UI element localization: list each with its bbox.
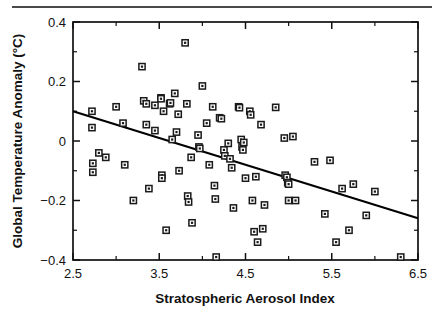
data-point-marker [184, 101, 190, 107]
data-point-marker [152, 127, 158, 133]
data-point-marker [176, 168, 182, 174]
data-point-marker [253, 174, 259, 180]
data-point-marker [146, 186, 152, 192]
data-point-marker [210, 104, 216, 110]
data-point-marker [350, 181, 356, 187]
data-point-marker [197, 145, 203, 151]
data-point-marker [363, 212, 369, 218]
x-tick-label: 6.5 [409, 266, 427, 281]
data-point-marker [175, 111, 181, 117]
data-point-marker [286, 197, 292, 203]
data-point-marker [273, 104, 279, 110]
data-point-marker [96, 150, 102, 156]
data-point-marker [398, 254, 404, 260]
data-point-marker [322, 211, 328, 217]
data-points [89, 40, 404, 260]
data-point-marker [89, 125, 95, 131]
data-point-marker [230, 205, 236, 211]
data-point-marker [227, 156, 233, 162]
data-point-marker [158, 96, 164, 102]
data-point-marker [189, 220, 195, 226]
data-point-marker [346, 227, 352, 233]
data-point-marker [182, 40, 188, 46]
axis-tick-labels: 2.53.54.55.56.5−0.4−0.200.20.4 [40, 15, 427, 282]
x-tick-label: 3.5 [150, 266, 168, 281]
y-tick-label: −0.2 [40, 193, 66, 208]
data-point-marker [139, 64, 145, 70]
data-point-marker [143, 101, 149, 107]
data-point-marker [327, 157, 333, 163]
data-point-marker [292, 197, 298, 203]
data-point-marker [185, 199, 191, 205]
data-point-marker [258, 122, 264, 128]
data-point-marker [229, 165, 235, 171]
data-point-marker [242, 175, 248, 181]
data-point-marker [204, 120, 210, 126]
data-point-marker [199, 83, 205, 89]
data-point-marker [90, 169, 96, 175]
data-point-marker [218, 116, 224, 122]
data-point-marker [120, 120, 126, 126]
data-point-marker [195, 132, 201, 138]
data-point-marker [103, 154, 109, 160]
data-point-marker [159, 175, 165, 181]
data-point-marker [172, 90, 178, 96]
data-point-marker [173, 129, 179, 135]
scatter-plot: 2.53.54.55.56.5−0.4−0.200.20.4 Stratosph… [0, 0, 443, 319]
data-point-marker [339, 186, 345, 192]
x-tick-label: 2.5 [64, 266, 82, 281]
data-point-marker [281, 135, 287, 141]
data-point-marker [225, 140, 231, 146]
data-point-marker [163, 227, 169, 233]
data-point-marker [89, 108, 95, 114]
y-tick-label: −0.4 [40, 253, 66, 268]
data-point-marker [152, 102, 158, 108]
data-point-marker [249, 197, 255, 203]
y-tick-label: 0.2 [48, 74, 66, 89]
y-axis-title: Global Temperature Anomaly (°C) [10, 34, 25, 249]
y-tick-label: 0.4 [48, 15, 66, 30]
data-point-marker [236, 105, 242, 111]
data-point-marker [122, 162, 128, 168]
data-point-marker [90, 160, 96, 166]
data-point-marker [241, 139, 247, 145]
data-point-marker [206, 162, 212, 168]
data-point-marker [167, 100, 173, 106]
data-point-marker [251, 229, 257, 235]
data-point-marker [113, 104, 119, 110]
y-tick-label: 0 [59, 134, 66, 149]
data-point-marker [311, 159, 317, 165]
data-point-marker [286, 181, 292, 187]
data-point-marker [372, 188, 378, 194]
data-point-marker [169, 136, 175, 142]
data-point-marker [290, 133, 296, 139]
data-point-marker [213, 254, 219, 260]
data-point-marker [160, 108, 166, 114]
data-point-marker [254, 239, 260, 245]
data-point-marker [212, 196, 218, 202]
data-point-marker [211, 183, 217, 189]
data-point-marker [261, 202, 267, 208]
data-point-marker [143, 122, 149, 128]
data-point-marker [240, 147, 246, 153]
figure-container: 2.53.54.55.56.5−0.4−0.200.20.4 Stratosph… [0, 0, 443, 319]
x-axis-title: Stratospheric Aerosol Index [155, 291, 335, 306]
x-tick-label: 4.5 [236, 266, 254, 281]
data-point-marker [333, 239, 339, 245]
data-point-marker [130, 197, 136, 203]
data-point-marker [260, 226, 266, 232]
data-point-marker [188, 154, 194, 160]
data-point-marker [248, 112, 254, 118]
x-tick-label: 5.5 [323, 266, 341, 281]
